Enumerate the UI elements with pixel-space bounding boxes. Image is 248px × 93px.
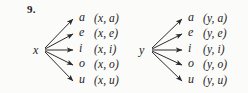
branch-target-label: u [79, 72, 85, 87]
ordered-pair-label: (y, e) [203, 26, 227, 41]
figure-canvas: 9. x a (x, a) e (x, e) [0, 0, 248, 93]
tree-diagram-y: y a (y, a) e (y, e) i ( [106, 0, 248, 93]
branch-target-label: a [79, 10, 85, 25]
branch-target-label: a [188, 10, 194, 25]
branch-target-label: i [79, 41, 82, 56]
ordered-pair-label: (y, i) [203, 42, 225, 57]
branch-target-label: u [188, 72, 194, 87]
branch-target-label: o [79, 56, 85, 71]
ordered-pair-label: (y, u) [203, 73, 227, 88]
branch-target-label: e [188, 25, 193, 40]
ordered-pair-label: (y, a) [203, 11, 227, 26]
ordered-pair-label: (y, o) [203, 57, 227, 72]
branch-target-label: e [79, 25, 84, 40]
branch-target-label: i [188, 41, 191, 56]
branch-target-label: o [188, 56, 194, 71]
